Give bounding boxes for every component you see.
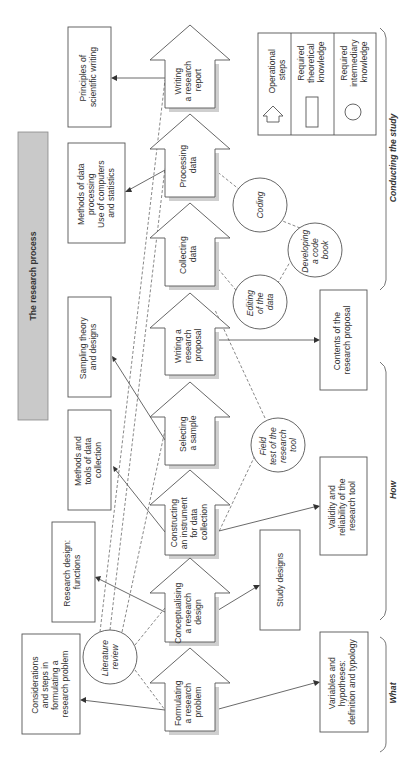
step-conceptualising-design: Conceptualising a research design <box>150 558 230 646</box>
phase-braces: What How Conducting the study <box>380 28 398 752</box>
svg-text:Principles of scientif: Principles of scientific writing <box>78 47 98 107</box>
box-considerations: Considerations and steps in formulating … <box>22 634 80 734</box>
box-methods-tools: Methods and tools of data collection <box>68 410 111 510</box>
svg-text:What: What <box>388 681 398 703</box>
circle-coding: Coding <box>233 178 287 232</box>
title-bar: The research process <box>18 132 48 420</box>
rectangle-shape-icon <box>306 97 318 127</box>
svg-text:Required intermediary: Required intermediary knowledge <box>339 37 369 87</box>
svg-text:Methods of data proces: Methods of data processing Use of comput… <box>76 158 116 228</box>
phase-what: What <box>380 637 398 752</box>
box-principles: Principles of scientific writing <box>68 27 111 127</box>
svg-text:Selecting a sample: Selecting a sample <box>178 414 198 452</box>
legend: Operational steps Required theoretical k… <box>258 33 376 135</box>
circle-developing-code-book: Developing a code book <box>288 223 342 277</box>
box-methods-processing: Methods of data processing Use of comput… <box>68 143 125 243</box>
circle-editing-data: Editing of the data <box>233 275 287 329</box>
step-constructing-instrument: Constructing an instrument for data coll… <box>150 470 230 559</box>
svg-text:Coding: Coding <box>255 191 265 218</box>
svg-text:Considerations and ste: Considerations and steps in formulating … <box>30 651 70 718</box>
svg-text:Writing a research: Writing a research proposal <box>173 327 203 363</box>
research-process-diagram: The research process <box>0 0 415 764</box>
phase-how: How <box>380 362 398 620</box>
box-research-design: Research design: functions <box>52 522 95 622</box>
svg-text:Validity and reliabili: Validity and reliability of the research… <box>327 476 357 536</box>
step-writing-report: Writing a research report <box>150 25 230 112</box>
svg-text:How: How <box>388 480 398 499</box>
operational-steps: Writing a research report Processing dat… <box>150 25 230 735</box>
phase-conducting-study: Conducting the study <box>380 28 398 290</box>
box-contents-proposal: Contents of the research proposal <box>320 290 367 390</box>
svg-text:Contents of the resear: Contents of the research proposal <box>332 306 352 375</box>
circle-literature-review: Literature review <box>83 630 137 684</box>
circle-field-test: Field test of the research tool <box>251 418 305 472</box>
circle-shape-icon <box>345 104 361 120</box>
svg-text:Conducting the study: Conducting the study <box>388 113 398 203</box>
svg-text:Study designs: Study designs <box>275 553 285 607</box>
step-writing-proposal: Writing a research proposal <box>150 293 230 379</box>
title-text: The research process <box>28 231 38 320</box>
svg-text:Sampling theory and de: Sampling theory and designs <box>78 315 98 380</box>
svg-text:Required theoretical: Required theoretical knowledge <box>296 41 326 83</box>
step-selecting-sample: Selecting a sample <box>150 382 230 469</box>
box-validity: Validity and reliability of the research… <box>320 457 367 555</box>
box-study-designs: Study designs <box>260 530 300 630</box>
step-collecting-data: Collecting data <box>150 203 230 290</box>
step-processing-data: Processing data <box>150 114 230 201</box>
step-formulating-problem: Formulating a research problem <box>150 648 230 735</box>
box-sampling: Sampling theory and designs <box>68 297 111 397</box>
box-variables: Variables and hypotheses: definition and… <box>320 632 368 732</box>
